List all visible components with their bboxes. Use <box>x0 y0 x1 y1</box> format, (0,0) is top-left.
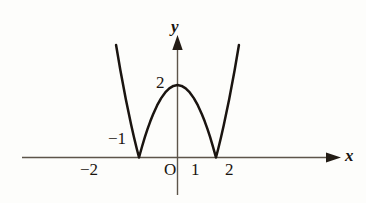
graph-figure: y x 2 −2 −1 O 1 2 <box>0 0 366 203</box>
x-axis-arrowhead <box>326 152 341 162</box>
origin-label: O <box>164 161 176 178</box>
x-tick-label-2: 2 <box>225 161 234 178</box>
y-tick-label-2: 2 <box>156 74 165 91</box>
x-tick-label-neg2: −2 <box>80 161 98 178</box>
x-tick-label-neg1: −1 <box>108 130 126 147</box>
plot-svg <box>0 0 366 203</box>
x-tick-label-1: 1 <box>191 161 200 178</box>
y-axis-label: y <box>171 18 179 35</box>
x-axis-label: x <box>345 147 354 164</box>
y-axis-arrowhead <box>172 35 182 50</box>
